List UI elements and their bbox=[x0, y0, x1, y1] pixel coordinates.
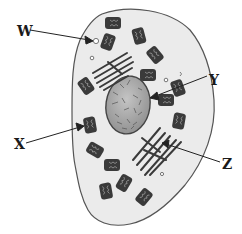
cell-diagram bbox=[0, 0, 242, 234]
label-w: W bbox=[17, 24, 33, 38]
label-y: Y bbox=[209, 73, 219, 87]
label-x: X bbox=[14, 137, 25, 151]
vesicle-w bbox=[93, 38, 98, 43]
membrane-notch bbox=[180, 72, 182, 76]
pointer-w bbox=[30, 30, 89, 40]
label-z: Z bbox=[222, 157, 232, 171]
